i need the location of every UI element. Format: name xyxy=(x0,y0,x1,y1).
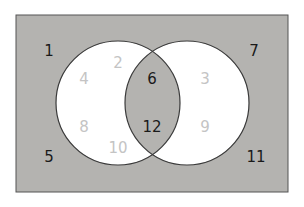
number-6: 6 xyxy=(147,70,157,88)
number-8: 8 xyxy=(79,118,89,136)
number-7: 7 xyxy=(249,42,259,60)
number-4: 4 xyxy=(79,70,89,88)
venn-diagram: 1 2 4 6 3 7 8 12 9 10 5 11 xyxy=(0,0,304,207)
number-10: 10 xyxy=(108,139,127,157)
number-5: 5 xyxy=(44,148,54,166)
number-12: 12 xyxy=(142,118,161,136)
number-11: 11 xyxy=(246,148,265,166)
number-1: 1 xyxy=(44,42,54,60)
number-2: 2 xyxy=(113,54,123,72)
number-3: 3 xyxy=(200,70,210,88)
number-9: 9 xyxy=(200,118,210,136)
